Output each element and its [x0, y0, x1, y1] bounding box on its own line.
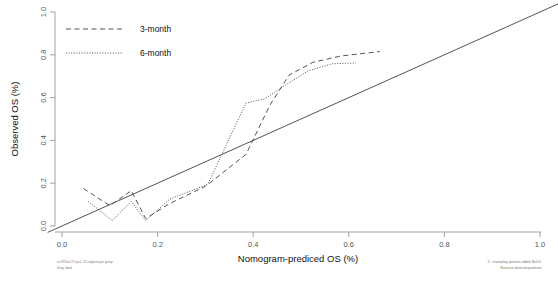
x-tick-label: 0.0: [57, 240, 67, 249]
x-tick-label: 0.6: [344, 240, 354, 249]
legend-label-6-month: 6-month: [140, 48, 171, 58]
y-tick-group: [50, 12, 55, 226]
legend-label-3-month: 3-month: [140, 24, 171, 34]
series-line-6-month: [88, 63, 356, 221]
y-tick-label: 0.4: [39, 135, 48, 145]
x-tick-label: 0.4: [248, 240, 258, 249]
y-tick-label: 1.0: [39, 7, 48, 17]
x-tick-label: 0.2: [152, 240, 162, 249]
legend: 3-month 6-month: [66, 24, 171, 58]
x-tick-group: [62, 232, 540, 237]
footnote-basis: Based on observed-predicted: [501, 266, 542, 270]
y-tick-label: 0.8: [39, 50, 48, 60]
footnote-resampling: X - resampling optimism added, B=500: [488, 260, 542, 264]
y-tick-label: 0.0: [39, 221, 48, 231]
calibration-plot: 0.0 0.2 0.4 0.6 0.8 1.0 Observed OS (%) …: [0, 0, 558, 287]
y-axis: 0.0 0.2 0.4 0.6 0.8 1.0 Observed OS (%): [9, 7, 55, 231]
x-tick-label: 0.8: [439, 240, 449, 249]
x-axis-title: Nomogram-prediced OS (%): [238, 253, 358, 264]
y-tick-label: 0.6: [39, 92, 48, 102]
x-axis: 0.0 0.2 0.4 0.6 0.8 1.0 Nomogram-predice…: [55, 232, 545, 264]
x-tick-label: 1.0: [535, 240, 545, 249]
footnote-sample-size: n=193 d=172 p=1, 25 subjects per group: [57, 260, 113, 264]
plot-canvas: 0.0 0.2 0.4 0.6 0.8 1.0 Observed OS (%) …: [0, 0, 558, 287]
footnote-bottom-right: X - resampling optimism added, B=500 Bas…: [488, 260, 542, 270]
footnote-gray-ideal: Gray: ideal: [57, 266, 72, 270]
footnote-bottom-left: n=193 d=172 p=1, 25 subjects per group G…: [57, 260, 113, 270]
y-axis-title: Observed OS (%): [9, 82, 20, 157]
series-group: [48, 3, 558, 232]
series-line-3-month: [84, 52, 380, 219]
series-line-ideal: [48, 3, 558, 232]
y-tick-label: 0.2: [39, 178, 48, 188]
